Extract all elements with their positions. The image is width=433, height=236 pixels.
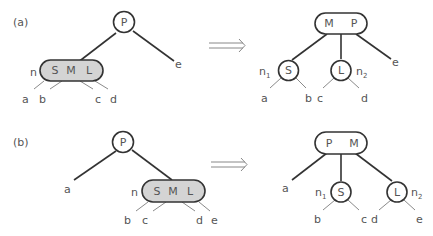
left-node-key: S bbox=[338, 186, 345, 199]
panel-a: (a) P e n S M L a b c d bbox=[13, 12, 399, 107]
panel-b-before-tree: P a n S M L b c d e bbox=[64, 132, 218, 228]
parent-key: P bbox=[121, 16, 128, 29]
edge-n-d bbox=[95, 81, 108, 89]
parent-node-pm bbox=[315, 132, 367, 154]
edge-p-to-n bbox=[132, 150, 172, 180]
key-m: M bbox=[168, 185, 178, 198]
node-name-n2: n2 bbox=[356, 65, 367, 80]
leaf-a: a bbox=[22, 93, 29, 106]
edge-n-c bbox=[80, 81, 93, 89]
leaf-d: d bbox=[371, 213, 378, 226]
leaf-e: e bbox=[175, 58, 182, 71]
edge-l-c bbox=[323, 78, 334, 88]
panel-a-before-tree: P e n S M L a b c d bbox=[22, 12, 182, 107]
parent-key-m: M bbox=[349, 137, 359, 150]
edge-n-a bbox=[34, 81, 44, 89]
edge-s-c bbox=[348, 200, 359, 210]
parent-key-p: P bbox=[326, 137, 333, 150]
node-name-n1: n1 bbox=[315, 186, 326, 201]
leaf-e: e bbox=[392, 56, 399, 69]
transform-arrow-a bbox=[209, 39, 245, 52]
right-node-key: L bbox=[338, 64, 345, 77]
edge-n-d bbox=[182, 202, 195, 211]
edge-mp-to-e bbox=[356, 34, 391, 59]
split-diagram: (a) P e n S M L a b c d bbox=[0, 0, 433, 236]
transform-arrow-b bbox=[211, 158, 247, 171]
panel-b: (b) P a n S M L b c d e bbox=[13, 132, 423, 228]
edge-n-b bbox=[136, 202, 148, 211]
leaf-c: c bbox=[361, 213, 367, 226]
parent-node-mp bbox=[315, 13, 367, 34]
edge-l-d bbox=[379, 200, 391, 210]
edge-s-a bbox=[270, 78, 281, 88]
key-m: M bbox=[66, 64, 76, 77]
leaf-a: a bbox=[64, 183, 71, 196]
node-name-n2: n2 bbox=[411, 186, 422, 201]
leaf-b: b bbox=[124, 214, 131, 227]
leaf-b: b bbox=[39, 93, 46, 106]
edge-n-c bbox=[153, 202, 166, 211]
leaf-a: a bbox=[261, 92, 268, 105]
edge-pm-to-l bbox=[355, 153, 392, 181]
leaf-b: b bbox=[314, 213, 321, 226]
edge-p-to-e bbox=[133, 31, 174, 61]
right-node-key: L bbox=[394, 186, 401, 199]
edge-mp-to-s bbox=[292, 34, 327, 60]
panel-label-b: (b) bbox=[13, 136, 29, 149]
edge-p-to-n bbox=[77, 33, 116, 63]
edge-n-e bbox=[199, 202, 210, 211]
edge-s-b bbox=[323, 200, 335, 210]
edge-n-b bbox=[50, 81, 62, 89]
leaf-a: a bbox=[282, 182, 289, 195]
leaf-e: e bbox=[211, 214, 218, 227]
panel-b-after-tree: P M a S L n1 n2 b c d e bbox=[282, 132, 423, 226]
panel-label-a: (a) bbox=[13, 16, 28, 29]
parent-key: P bbox=[120, 136, 127, 149]
key-l: L bbox=[86, 64, 93, 77]
left-node-key: S bbox=[285, 64, 292, 77]
edge-p-to-a bbox=[74, 151, 116, 180]
node-name-n1: n1 bbox=[259, 65, 270, 80]
leaf-b: b bbox=[305, 92, 312, 105]
parent-key-p: P bbox=[351, 17, 358, 30]
edge-pm-to-a bbox=[292, 153, 327, 180]
leaf-e: e bbox=[416, 213, 423, 226]
edge-l-e bbox=[404, 200, 415, 210]
leaf-d: d bbox=[196, 214, 203, 227]
leaf-d: d bbox=[110, 93, 117, 106]
parent-key-m: M bbox=[324, 17, 334, 30]
leaf-d: d bbox=[361, 92, 368, 105]
key-s: S bbox=[154, 185, 161, 198]
leaf-c: c bbox=[95, 93, 101, 106]
key-l: L bbox=[187, 185, 194, 198]
edge-l-d bbox=[348, 78, 359, 88]
panel-a-after-tree: M P e S L n1 n2 a b c d bbox=[259, 13, 399, 105]
edge-s-b bbox=[296, 78, 306, 88]
key-s: S bbox=[52, 64, 59, 77]
leaf-c: c bbox=[142, 214, 148, 227]
node-name-n: n bbox=[131, 186, 138, 199]
node-name-n: n bbox=[30, 66, 37, 79]
leaf-c: c bbox=[317, 92, 323, 105]
